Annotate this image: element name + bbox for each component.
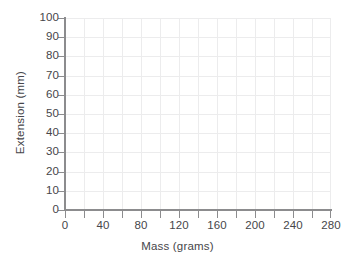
y-axis-tick (58, 56, 65, 57)
x-axis-tick-label: 80 (121, 220, 161, 232)
x-axis-tick (312, 211, 313, 218)
y-axis-tick (58, 37, 65, 38)
y-axis-tick (58, 210, 65, 211)
x-axis-tick (160, 211, 161, 218)
x-axis-tick (141, 211, 142, 218)
x-axis-tick-label: 120 (159, 220, 199, 232)
x-axis-title: Mass (grams) (0, 240, 355, 253)
x-axis-tick (330, 211, 331, 218)
x-axis-tick-label: 280 (311, 220, 351, 232)
x-axis-tick (179, 211, 180, 218)
plot-area (65, 18, 331, 210)
x-axis-tick (217, 211, 218, 218)
x-axis-tick (255, 211, 256, 218)
y-axis-tick (58, 152, 65, 153)
x-axis-tick-label: 160 (197, 220, 237, 232)
x-axis-tick (65, 211, 66, 218)
y-axis-tick (58, 95, 65, 96)
x-axis-tick (84, 211, 85, 218)
x-axis-tick (236, 211, 237, 218)
x-axis-tick-label: 240 (273, 220, 313, 232)
y-axis-title: Extension (mm) (14, 17, 27, 209)
x-axis-tick-label: 0 (45, 220, 85, 232)
y-axis-tick (58, 18, 65, 19)
x-axis-tick-label: 40 (83, 220, 123, 232)
y-axis-tick (58, 133, 65, 134)
x-axis-tick (198, 211, 199, 218)
x-axis-tick (274, 211, 275, 218)
chart-figure: 0 10 20 30 40 50 60 70 80 90 100 0 40 80… (0, 0, 355, 265)
x-axis-tick (122, 211, 123, 218)
y-axis-tick (58, 172, 65, 173)
y-axis-tick (58, 114, 65, 115)
x-axis-tick (293, 211, 294, 218)
x-axis-tick-label: 200 (235, 220, 275, 232)
y-axis-tick (58, 191, 65, 192)
x-axis-tick (103, 211, 104, 218)
data-series-layer (65, 18, 331, 210)
y-axis-tick (58, 76, 65, 77)
